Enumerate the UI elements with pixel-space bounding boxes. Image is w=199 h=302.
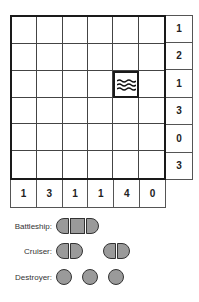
grid-cell[interactable]: [113, 17, 138, 44]
grid-cell[interactable]: [139, 71, 164, 98]
grid-cell[interactable]: [113, 98, 138, 125]
grid-cell[interactable]: [88, 124, 113, 151]
destroyer-label: Destroyer:: [0, 273, 56, 282]
row-clue: 3: [166, 153, 193, 181]
grid-cell[interactable]: [12, 44, 37, 71]
grid-cell-water[interactable]: [113, 71, 138, 98]
column-clue: 0: [140, 180, 166, 208]
cruiser-label: Cruiser:: [0, 247, 56, 256]
cruiser-icon: [103, 243, 130, 259]
column-clue: 1: [88, 180, 114, 208]
grid-cell[interactable]: [12, 98, 37, 125]
grid-cell[interactable]: [113, 151, 138, 178]
grid-cell[interactable]: [139, 98, 164, 125]
grid-cell[interactable]: [63, 71, 88, 98]
grid-cell[interactable]: [88, 151, 113, 178]
grid-cell[interactable]: [88, 71, 113, 98]
grid-cell[interactable]: [63, 124, 88, 151]
column-clue: 1: [10, 180, 37, 208]
grid-cell[interactable]: [12, 71, 37, 98]
grid-cell[interactable]: [37, 44, 62, 71]
row-clue: 3: [166, 98, 193, 126]
puzzle-grid: [10, 15, 166, 180]
grid-cell[interactable]: [63, 44, 88, 71]
cruiser-icon: [56, 243, 83, 259]
row-clue: 1: [166, 15, 193, 43]
grid-cell[interactable]: [63, 98, 88, 125]
grid-cell[interactable]: [37, 124, 62, 151]
legend-cruiser: Cruiser:: [0, 243, 140, 259]
grid-cell[interactable]: [139, 124, 164, 151]
grid-cell[interactable]: [37, 151, 62, 178]
legend-destroyer: Destroyer:: [0, 269, 134, 285]
battleship-label: Battleship:: [0, 222, 56, 231]
grid-cell[interactable]: [88, 98, 113, 125]
row-clue: 0: [166, 125, 193, 153]
grid-cell[interactable]: [37, 71, 62, 98]
grid-cell[interactable]: [88, 17, 113, 44]
grid-cell[interactable]: [113, 44, 138, 71]
grid-cell[interactable]: [37, 17, 62, 44]
destroyer-icon: [108, 269, 124, 285]
water-waves-icon: [117, 79, 136, 91]
grid-cell[interactable]: [12, 17, 37, 44]
grid-cell[interactable]: [63, 17, 88, 44]
row-clue: 1: [166, 70, 193, 98]
grid-cell[interactable]: [12, 151, 37, 178]
column-clue: 1: [63, 180, 89, 208]
grid-cell[interactable]: [113, 124, 138, 151]
grid-cell[interactable]: [88, 44, 113, 71]
grid-cell[interactable]: [139, 44, 164, 71]
legend-battleship: Battleship:: [0, 218, 109, 234]
grid-cell[interactable]: [37, 98, 62, 125]
grid-cell[interactable]: [139, 151, 164, 178]
row-clue: 2: [166, 43, 193, 71]
destroyer-icon: [56, 269, 72, 285]
grid-cell[interactable]: [63, 151, 88, 178]
destroyer-icon: [82, 269, 98, 285]
battleship-icon: [56, 218, 99, 234]
grid-cell[interactable]: [12, 124, 37, 151]
column-clue: 4: [114, 180, 140, 208]
row-clues: 1 2 1 3 0 3: [166, 15, 193, 180]
column-clue: 3: [37, 180, 63, 208]
grid-cell[interactable]: [139, 17, 164, 44]
column-clues: 1 3 1 1 4 0: [10, 180, 166, 208]
